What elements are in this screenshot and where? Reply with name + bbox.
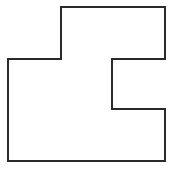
stepped-polygon-outline bbox=[8, 7, 165, 161]
polygon-figure bbox=[0, 0, 180, 174]
diagram-canvas bbox=[0, 0, 180, 174]
